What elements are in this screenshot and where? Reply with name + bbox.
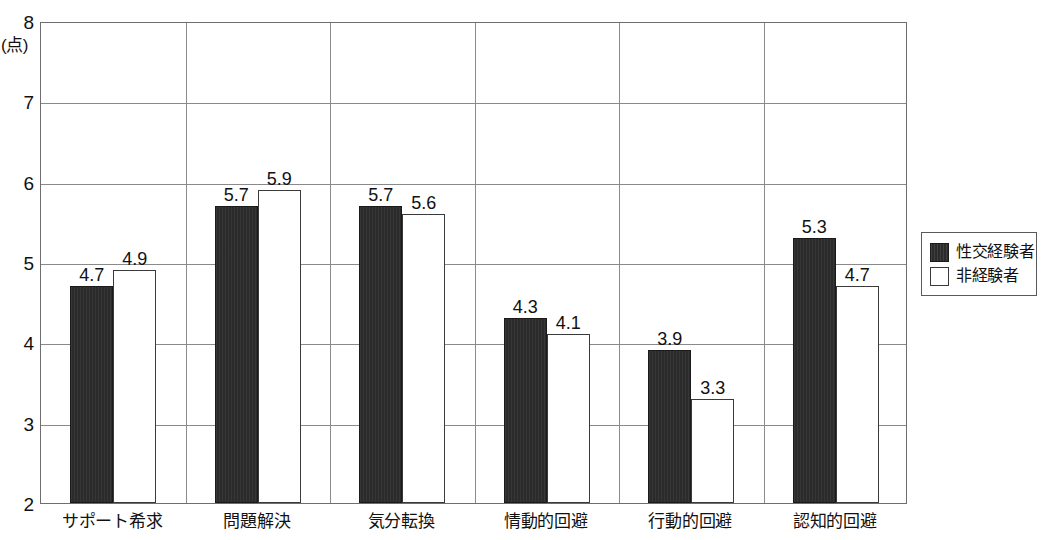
bar [215, 206, 258, 503]
x-category-label: 行動的回避 [618, 512, 763, 532]
y-tick-label: 6 [4, 174, 34, 193]
legend-swatch-light [930, 267, 949, 286]
bar-value-label: 4.1 [541, 314, 596, 332]
category-separator [186, 23, 187, 503]
category-separator [475, 23, 476, 503]
bar-value-label: 5.3 [787, 218, 842, 236]
bar-value-label: 5.9 [252, 170, 307, 188]
bar [648, 350, 691, 503]
gridline [41, 264, 906, 265]
y-tick-label: 8 [4, 13, 34, 32]
x-category-label: 問題解決 [185, 512, 330, 532]
y-tick-label: 7 [4, 93, 34, 112]
category-separator [330, 23, 331, 503]
y-axis-unit-label: (点) [1, 36, 28, 56]
bar-value-label: 5.6 [396, 194, 451, 212]
category-separator [764, 23, 765, 503]
bar-value-label: 3.9 [642, 330, 697, 348]
legend-item-label: 非経験者 [956, 267, 1019, 285]
bar [547, 334, 590, 503]
bar [504, 318, 547, 503]
legend-item: 非経験者 [930, 264, 1029, 288]
gridline [41, 344, 906, 345]
y-tick-label: 3 [4, 415, 34, 434]
bar [402, 214, 445, 503]
bar [691, 399, 734, 503]
y-tick-label: 4 [4, 334, 34, 353]
bar [113, 270, 156, 503]
legend-item-label: 性交経験者 [956, 243, 1035, 261]
x-category-label: 情動的回避 [474, 512, 619, 532]
x-category-label: 気分転換 [329, 512, 474, 532]
gridline [41, 184, 906, 185]
legend-swatch-dark [930, 243, 949, 262]
x-category-label: サポート希求 [40, 512, 185, 532]
bar-value-label: 4.9 [107, 250, 162, 268]
chart-legend: 性交経験者非経験者 [921, 232, 1037, 296]
bar [359, 206, 402, 503]
x-category-label: 認知的回避 [763, 512, 908, 532]
category-separator [619, 23, 620, 503]
bar [70, 286, 113, 503]
bar-value-label: 3.3 [685, 379, 740, 397]
bar-chart: (点) 2345678 4.74.95.75.95.75.64.34.13.93… [0, 0, 1044, 540]
bar [836, 286, 879, 503]
bar-value-label: 5.7 [209, 186, 264, 204]
gridline [41, 425, 906, 426]
bar [258, 190, 301, 503]
plot-area: 4.74.95.75.95.75.64.34.13.93.35.34.7 [40, 22, 907, 504]
y-tick-label: 2 [4, 495, 34, 514]
gridline [41, 103, 906, 104]
bar-value-label: 4.7 [64, 266, 119, 284]
y-tick-label: 5 [4, 254, 34, 273]
bar-value-label: 4.7 [830, 266, 885, 284]
legend-item: 性交経験者 [930, 240, 1029, 264]
